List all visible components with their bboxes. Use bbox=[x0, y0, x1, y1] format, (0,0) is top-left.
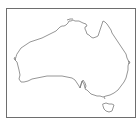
northern-islands bbox=[67, 19, 73, 20]
tasmania-coastline bbox=[103, 103, 114, 112]
bass-strait-islands bbox=[104, 97, 105, 99]
mainland-coastline bbox=[15, 20, 129, 97]
australia-map bbox=[0, 0, 140, 123]
